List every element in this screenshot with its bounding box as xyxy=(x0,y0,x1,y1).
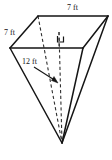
label-left-edge: 7 ft xyxy=(4,28,15,37)
pyramid-diagram-svg xyxy=(0,0,112,160)
label-height: 12 ft xyxy=(22,57,37,66)
geometry-figure: 7 ft 7 ft 12 ft xyxy=(0,0,112,160)
base-edge-right-front xyxy=(83,16,108,48)
hidden-lateral-edge-back xyxy=(38,16,62,143)
hidden-edges-group xyxy=(38,16,62,143)
label-top-edge: 7 ft xyxy=(67,3,78,12)
right-angle-mark xyxy=(58,36,64,42)
height-leader-arrow xyxy=(34,67,58,83)
lateral-edge-right xyxy=(62,16,108,143)
